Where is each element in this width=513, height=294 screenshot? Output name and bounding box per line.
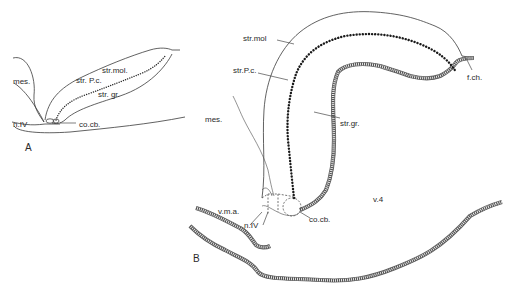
panel-b-label-vma: v.m.a. [218,207,239,216]
panel-a: mes. str.mol. str. P.c. str. gr. n.IV co… [12,48,185,153]
panel-b-str-pc-leader [258,73,288,80]
panel-a-purkinje-layer [56,55,166,120]
panel-b-label-str-pc: str.P.c. [233,66,256,75]
panel-b-niv-leader [263,212,268,225]
panel-a-mes-outline [13,58,44,122]
panel-b-letter: B [193,253,200,264]
panel-b-mes-inner [262,188,272,196]
panel-b-label-f-ch: f.ch. [467,73,482,82]
panel-b-label-niv: n.IV [244,221,259,230]
panel-a-cerebellum-outer [45,48,180,120]
panel-b-ependyma [300,58,474,210]
panel-b: str.mol str.P.c. mes. str.gr. f.ch. v.4 … [190,12,502,281]
anatomical-figure: mes. str.mol. str. P.c. str. gr. n.IV co… [0,0,513,294]
panel-a-label-co-cb: co.cb. [79,120,100,129]
panel-b-label-mes: mes. [205,115,222,124]
panel-a-label-str-gr: str. gr. [98,90,120,99]
panel-a-mes-inner [14,83,44,122]
panel-b-label-str-gr: str.gr. [340,119,360,128]
panel-a-label-str-mol: str.mol. [102,66,128,75]
panel-a-label-mes: mes. [13,77,30,86]
panel-a-letter: A [25,142,32,153]
panel-a-label-n-iv: n.IV [13,120,28,129]
panel-b-label-str-mol: str.mol [243,34,267,43]
panel-b-mes-outline [233,96,274,196]
panel-b-pial-surface [262,12,474,198]
panel-b-purkinje-layer [287,34,456,198]
panel-b-label-co-cb: co.cb. [309,215,330,224]
panel-a-label-str-pc: str. P.c. [76,76,102,85]
panel-b-str-gr-leader [314,112,340,118]
panel-b-label-v4: v.4 [373,195,384,204]
panel-a-cerebellum-lower [52,54,172,124]
